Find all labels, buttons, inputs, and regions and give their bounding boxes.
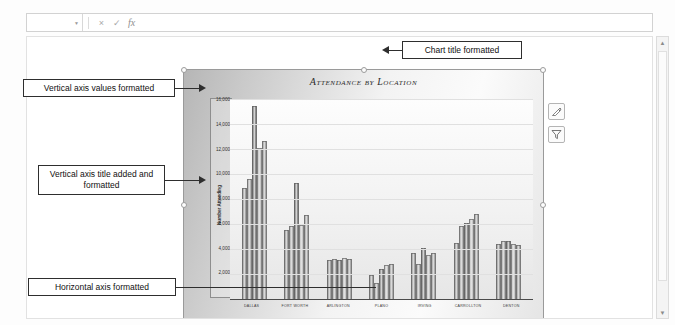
callout-vertical-axis-title: Vertical axis title added and formatted: [38, 165, 165, 195]
bar-group[interactable]: [454, 100, 479, 300]
category-label: ARLINGTON: [317, 304, 360, 308]
bar-group[interactable]: [411, 100, 436, 300]
plot-area[interactable]: [230, 100, 533, 300]
y-axis-tick-label: 2,000: [219, 270, 231, 275]
formula-input[interactable]: [139, 14, 652, 31]
paintbrush-icon: [551, 106, 562, 117]
bar[interactable]: [474, 214, 479, 300]
scroll-up-icon[interactable]: ▲: [657, 37, 668, 48]
callout-arrow-2: [199, 176, 206, 184]
resize-handle-w[interactable]: [181, 202, 187, 208]
category-label: IRVING: [403, 304, 446, 308]
bar-groups: [230, 100, 533, 300]
gridline: [230, 124, 533, 125]
insert-function-icon[interactable]: fx: [124, 15, 139, 30]
category-axis-line: [230, 299, 533, 300]
bar-group[interactable]: [327, 100, 352, 300]
y-axis-tick-label: 16,000: [216, 97, 230, 102]
enter-formula-icon[interactable]: ✓: [109, 15, 124, 30]
divider: [88, 17, 89, 29]
scroll-down-icon[interactable]: ▼: [657, 307, 668, 318]
formula-bar: ▼ × ✓ fx: [26, 13, 653, 32]
callout-vertical-axis-values: Vertical axis values formatted: [23, 79, 175, 97]
resize-handle-n[interactable]: [361, 67, 367, 73]
callout-leader-2: [165, 180, 199, 181]
name-box[interactable]: ▼: [27, 14, 83, 31]
category-label: FORT WORTH: [273, 304, 316, 308]
callout-leader-4: [389, 50, 402, 51]
category-labels: DALLASFORT WORTHARLINGTONPLANOIRVINGCARR…: [230, 304, 533, 314]
gridline: [230, 174, 533, 175]
bar[interactable]: [262, 141, 267, 300]
gridline: [230, 249, 533, 250]
y-axis-tick-label: 10,000: [216, 171, 230, 176]
bar[interactable]: [516, 245, 521, 300]
callout-leader-3: [176, 287, 376, 288]
chart-styles-button[interactable]: [548, 103, 565, 120]
callout-leader-1: [175, 88, 199, 89]
gridline: [230, 99, 533, 100]
bar[interactable]: [389, 264, 394, 300]
y-axis-tick-label: 12,000: [216, 146, 230, 151]
excel-window: ▼ × ✓ fx Attendance by Location 2,0004,0…: [0, 0, 675, 325]
scrollbar-thumb[interactable]: [658, 51, 667, 281]
category-label: DENTON: [490, 304, 533, 308]
chart-title[interactable]: Attendance by Location: [184, 76, 543, 87]
bar-group[interactable]: [284, 100, 309, 300]
category-label: CARROLLTON: [446, 304, 489, 308]
bar-group[interactable]: [369, 100, 394, 300]
gridline: [230, 274, 533, 275]
gridline: [230, 224, 533, 225]
funnel-icon: [551, 129, 562, 140]
chart-object[interactable]: Attendance by Location 2,0004,0006,0008,…: [183, 69, 544, 319]
chart-filters-button[interactable]: [548, 126, 565, 143]
callout-chart-title: Chart title formatted: [402, 41, 522, 59]
callout-arrow-1: [199, 84, 206, 92]
bar-group[interactable]: [242, 100, 267, 300]
vertical-axis-title[interactable]: Number Attending: [217, 185, 222, 225]
chevron-down-icon[interactable]: ▼: [74, 20, 79, 26]
gridline: [230, 149, 533, 150]
y-axis-tick-label: 4,000: [219, 245, 231, 250]
bar[interactable]: [347, 259, 352, 300]
cancel-formula-icon[interactable]: ×: [94, 15, 109, 30]
category-label: PLANO: [360, 304, 403, 308]
category-label: DALLAS: [230, 304, 273, 308]
y-axis-tick-label: 14,000: [216, 121, 230, 126]
callout-arrow-4: [382, 46, 389, 54]
bar-group[interactable]: [496, 100, 521, 300]
bar[interactable]: [431, 253, 436, 301]
vertical-scrollbar[interactable]: ▲ ▼: [656, 36, 669, 319]
resize-handle-ne[interactable]: [540, 67, 546, 73]
resize-handle-e[interactable]: [540, 202, 546, 208]
resize-handle-nw[interactable]: [181, 67, 187, 73]
gridline: [230, 199, 533, 200]
callout-horizontal-axis: Horizontal axis formatted: [28, 278, 176, 296]
